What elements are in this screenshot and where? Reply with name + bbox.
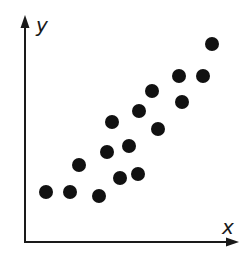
y-axis [21, 15, 30, 242]
y-axis-arrow-icon [21, 15, 30, 28]
data-point [131, 167, 145, 181]
data-point [196, 69, 210, 83]
data-point [132, 104, 146, 118]
data-point [63, 185, 77, 199]
data-points [39, 37, 219, 203]
data-point [172, 69, 186, 83]
data-point [39, 185, 53, 199]
data-point [151, 122, 165, 136]
data-point [205, 37, 219, 51]
x-axis [24, 238, 239, 247]
scatter-chart: y x [0, 0, 246, 253]
data-point [122, 139, 136, 153]
data-point [113, 171, 127, 185]
data-point [175, 95, 189, 109]
data-point [105, 115, 119, 129]
x-axis-label: x [221, 215, 234, 239]
data-point [92, 189, 106, 203]
data-point [145, 84, 159, 98]
y-axis-label: y [35, 13, 49, 37]
data-point [100, 145, 114, 159]
data-point [72, 158, 86, 172]
